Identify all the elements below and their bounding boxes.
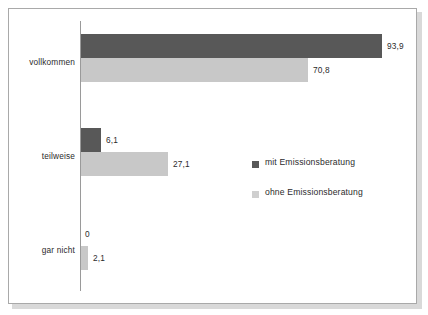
value-label-vollkommen-mit: 93,9 xyxy=(387,42,404,50)
value-label-teilweise-ohne: 27,1 xyxy=(173,160,190,168)
category-label-gar-nicht: gar nicht xyxy=(0,246,75,254)
chart-plot-area: vollkommen 93,9 70,8 teilweise 6,1 27,1 … xyxy=(9,9,418,305)
category-label-teilweise: teilweise xyxy=(0,152,75,160)
figure-canvas: vollkommen 93,9 70,8 teilweise 6,1 27,1 … xyxy=(0,0,428,315)
bar-vollkommen-mit xyxy=(81,34,382,58)
bar-teilweise-mit xyxy=(81,128,101,152)
bar-gar-nicht-ohne xyxy=(81,246,88,270)
value-label-teilweise-mit: 6,1 xyxy=(106,136,118,144)
legend-label-ohne-emissionsberatung: ohne Emissionsberatung xyxy=(265,188,363,197)
value-label-vollkommen-ohne: 70,8 xyxy=(313,66,330,74)
legend-swatch-icon-light xyxy=(252,191,259,198)
category-label-vollkommen: vollkommen xyxy=(0,58,75,66)
legend-label-mit-emissionsberatung: mit Emissionsberatung xyxy=(265,158,355,167)
figure-frame: vollkommen 93,9 70,8 teilweise 6,1 27,1 … xyxy=(8,8,417,304)
bar-vollkommen-ohne xyxy=(81,58,308,82)
value-label-gar-nicht-mit: 0 xyxy=(85,230,90,238)
value-label-gar-nicht-ohne: 2,1 xyxy=(93,254,105,262)
bar-teilweise-ohne xyxy=(81,152,168,176)
legend-swatch-icon-dark xyxy=(252,161,259,168)
